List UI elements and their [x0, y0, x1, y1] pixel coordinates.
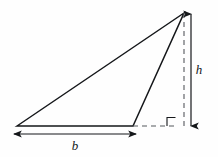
hypotenuse-tick-gap: [107, 61, 109, 63]
height-label: h: [196, 62, 203, 77]
triangle-diagram-svg: h b: [0, 0, 218, 157]
figure-container: h b: [0, 0, 218, 157]
base-label: b: [72, 138, 79, 153]
